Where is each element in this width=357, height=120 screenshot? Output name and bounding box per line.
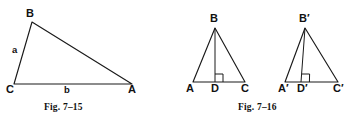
vertex-label-A: A — [128, 84, 136, 95]
figure-7-15-panel: B C A a b Fig. 7–15 — [0, 0, 178, 120]
vertex-label-C-prime: C′ — [333, 83, 344, 94]
right-angle-mark-d — [215, 74, 223, 82]
figure-7-16-panel: B A D C B′ A′ D′ C′ Fig. 7–16 — [178, 0, 357, 120]
vertex-label-A-prime: A′ — [278, 83, 289, 94]
figure-7-16-drawing — [178, 0, 357, 100]
triangle-outline-a-b-c-prime — [285, 28, 338, 82]
right-angle-mark-d-prime — [302, 74, 310, 82]
figure-sheet: B C A a b Fig. 7–15 B A D C B′ — [0, 0, 357, 120]
vertex-label-D-prime: D′ — [297, 83, 308, 94]
vertex-label-C: C — [6, 84, 14, 95]
side-label-b: b — [64, 85, 70, 95]
figure-7-16-caption: Fig. 7–16 — [238, 103, 277, 113]
vertex-label-A-2: A — [186, 83, 194, 94]
vertex-label-C-2: C — [241, 83, 249, 94]
vertex-label-B-prime: B′ — [299, 13, 310, 24]
vertex-label-B-2: B — [210, 13, 218, 24]
triangle-outline-abc — [14, 22, 132, 84]
side-label-a: a — [12, 45, 17, 55]
vertex-label-B: B — [26, 8, 34, 19]
figure-7-15-caption: Fig. 7–15 — [44, 103, 83, 113]
vertex-label-D: D — [211, 83, 219, 94]
